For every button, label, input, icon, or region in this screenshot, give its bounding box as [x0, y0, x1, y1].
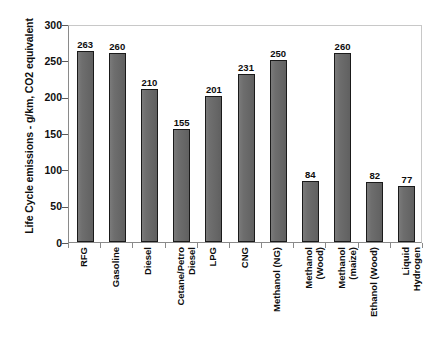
y-axis-tick-mark	[62, 98, 68, 99]
bar-value-label: 231	[226, 63, 266, 73]
x-axis-tick-mark	[132, 243, 133, 248]
bar-value-label: 84	[290, 170, 330, 180]
x-axis-tick-labels: RFGGasolineDieselCetane/Petro DieselLPGC…	[0, 243, 446, 338]
bar	[302, 181, 319, 242]
x-axis-tick-mark	[358, 243, 359, 248]
x-axis-tick-label: Methanol (Wood)	[304, 247, 325, 338]
x-axis-tick-label: Cetane/Petro Diesel	[176, 247, 197, 338]
bar-value-label: 77	[387, 175, 427, 185]
y-axis-tick-mark	[62, 170, 68, 171]
x-axis-tick-mark	[390, 243, 391, 248]
bar-value-label: 260	[323, 42, 363, 52]
x-axis-tick-mark	[229, 243, 230, 248]
y-axis-tick-mark	[62, 134, 68, 135]
y-axis-tick-label: 150	[28, 129, 62, 140]
bar	[109, 53, 126, 242]
x-axis-tick-label: Ethanol (Wood)	[369, 247, 380, 338]
y-axis-tick-mark	[62, 207, 68, 208]
x-axis-tick-label: Gasoline	[111, 247, 122, 338]
y-axis-tick-label: 50	[28, 201, 62, 212]
bar	[205, 96, 222, 242]
x-axis-tick-mark	[422, 243, 423, 248]
x-axis-tick-mark	[165, 243, 166, 248]
bar	[141, 89, 158, 242]
bar	[270, 60, 287, 242]
x-axis-tick-mark	[197, 243, 198, 248]
y-axis-tick-label: 300	[28, 20, 62, 31]
y-axis-tick-label: 250	[28, 56, 62, 67]
x-axis-tick-mark	[325, 243, 326, 248]
bar	[173, 129, 190, 242]
bar-value-label: 201	[194, 85, 234, 95]
bar-value-label: 155	[162, 118, 202, 128]
bar-value-label: 210	[129, 78, 169, 88]
bar	[238, 74, 255, 242]
bar-value-label: 260	[97, 42, 137, 52]
x-axis-tick-label: CNG	[240, 247, 251, 338]
x-axis-tick-mark	[261, 243, 262, 248]
y-axis-tick-label: 200	[28, 92, 62, 103]
bar	[334, 53, 351, 242]
x-axis-tick-label: RFG	[79, 247, 90, 338]
x-axis-tick-mark	[68, 243, 69, 248]
x-axis-tick-mark	[293, 243, 294, 248]
bar-value-label: 250	[258, 49, 298, 59]
y-axis-tick-mark	[62, 25, 68, 26]
bar	[366, 182, 383, 242]
bar	[77, 51, 94, 242]
x-axis-tick-label: Methanol (maize)	[337, 247, 358, 338]
bar	[398, 186, 415, 242]
x-axis-tick-label: Diesel	[143, 247, 154, 338]
plot-area: 263260210155201231250842608277	[68, 25, 422, 243]
bar-chart: Life Cycle emissions - g/km, CO2 equival…	[0, 0, 446, 338]
x-axis-tick-label: Liquid Hydrogen	[401, 247, 422, 338]
x-axis-tick-label: LPG	[208, 247, 219, 338]
y-axis-tick-mark	[62, 61, 68, 62]
y-axis-tick-label: 100	[28, 165, 62, 176]
bars-layer: 263260210155201231250842608277	[69, 26, 421, 242]
x-axis-tick-mark	[100, 243, 101, 248]
x-axis-tick-label: Methanol (NG)	[272, 247, 283, 338]
